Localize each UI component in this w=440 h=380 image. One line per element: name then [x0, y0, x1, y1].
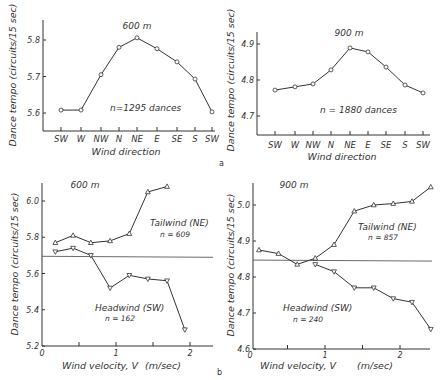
sample-size-annotation: n = 1880 dances	[320, 105, 397, 115]
y-tick-label: 5.8	[27, 36, 40, 45]
sample-size-annotation: n=1295 dances	[110, 103, 181, 113]
chart-title: 900 m	[335, 28, 364, 38]
chart-b-900: 4.64.74.84.95.0Dance tempo (circuits/15 …	[225, 180, 433, 371]
data-point-triangle-down	[53, 250, 58, 254]
x-category-label: NE	[131, 134, 143, 144]
data-line	[315, 264, 431, 329]
data-point-circle	[384, 65, 388, 69]
x-category-label: SW	[54, 134, 68, 144]
series-n-label: n = 240	[293, 315, 323, 324]
y-tick-label: 4.9	[237, 237, 250, 246]
y-axis-label: Dance tempo (circuits/15 sec)	[9, 193, 20, 336]
data-point-triangle-up	[410, 199, 415, 203]
x-axis-label: Wind direction	[308, 151, 377, 162]
x-category-label: SW	[205, 134, 219, 144]
y-axis-label: Dance tempo (circuits/15 sec)	[225, 194, 236, 337]
data-point-triangle-up	[313, 256, 318, 260]
data-point-triangle-down	[108, 286, 113, 290]
data-point-circle	[59, 108, 63, 112]
y-tick-label: 6.0	[26, 197, 39, 206]
y-tick-label: 5.8	[26, 233, 39, 242]
data-point-circle	[99, 73, 103, 77]
x-category-label: N	[328, 140, 335, 150]
data-point-circle	[421, 91, 425, 95]
x-category-label: S	[402, 140, 408, 150]
y-tick-label: 4.9	[241, 40, 254, 49]
reference-line	[253, 260, 432, 261]
data-point-circle	[348, 46, 352, 50]
x-category-label: N	[116, 134, 123, 144]
x-axis-unit: (m/sec)	[357, 360, 393, 371]
panel-label-b: b	[217, 368, 222, 377]
x-category-label: W	[291, 140, 300, 150]
data-point-triangle-up	[71, 233, 76, 237]
data-line	[61, 38, 212, 112]
chart-a-900: 4.74.84.9Dance tempo (circuits/15 sec)90…	[225, 9, 430, 163]
chart-a-600: 5.65.75.8Dance tempo (circuits/15 sec)60…	[7, 4, 219, 158]
x-tick-label: 0	[39, 349, 44, 358]
series-headwind: Headwind (SW)n = 240	[283, 263, 433, 332]
series-tailwind: Tailwind (NE)n = 857	[257, 184, 434, 266]
x-category-label: SW	[416, 140, 430, 150]
x-tick-label: 1	[322, 351, 327, 360]
data-point-triangle-down	[165, 279, 170, 283]
axes	[43, 20, 215, 131]
series-n-label: n = 162	[105, 314, 135, 323]
chart-b-600: 5.25.45.65.86.0Dance tempo (circuits/15 …	[9, 180, 213, 371]
series-tailwind: Tailwind (NE)n = 609	[53, 184, 209, 245]
x-tick-label: 2	[397, 351, 402, 360]
y-tick-label: 4.7	[241, 112, 255, 121]
data-point-triangle-down	[182, 328, 187, 332]
y-tick-label: 5.6	[26, 270, 39, 279]
x-category-label: W	[77, 134, 86, 144]
data-point-circle	[210, 110, 214, 114]
data-point-triangle-up	[428, 184, 433, 188]
y-tick-label: 5.2	[26, 342, 39, 351]
data-point-circle	[193, 77, 197, 81]
x-category-label: E	[365, 140, 371, 150]
chart-title: 600 m	[123, 21, 152, 31]
figure-canvas: 5.65.75.8Dance tempo (circuits/15 sec)60…	[0, 0, 440, 380]
data-point-circle	[403, 83, 407, 87]
data-point-triangle-down	[428, 327, 433, 331]
x-axis-unit: (m/sec)	[145, 360, 181, 371]
y-tick-label: 4.8	[241, 76, 254, 85]
x-tick-label: 1	[113, 349, 118, 358]
data-point-triangle-up	[127, 231, 132, 235]
x-axis-label: Wind direction	[92, 146, 161, 157]
data-point-circle	[79, 108, 83, 112]
x-category-label: NE	[344, 140, 356, 150]
x-axis-label: Wind velocity, V	[260, 360, 338, 371]
series-headwind: Headwind (SW)n = 162	[53, 246, 187, 332]
chart-title: 900 m	[280, 180, 309, 190]
data-point-triangle-up	[165, 184, 170, 188]
x-category-label: SE	[172, 134, 183, 144]
reference-line	[42, 256, 213, 257]
y-tick-label: 5.7	[27, 73, 41, 82]
y-tick-label: 5.6	[27, 109, 40, 118]
y-tick-label: 5.4	[26, 306, 39, 315]
data-point-circle	[155, 47, 159, 51]
x-tick-label: 2	[187, 349, 192, 358]
x-category-label: NW	[306, 140, 321, 150]
series-n-label: n = 609	[160, 230, 190, 239]
series-n-label: n = 857	[368, 233, 398, 242]
data-point-circle	[135, 36, 139, 40]
x-axis-label: Wind velocity, V	[62, 360, 140, 371]
x-category-label: S	[192, 134, 198, 144]
x-category-label: NW	[94, 134, 109, 144]
data-point-circle	[175, 60, 179, 64]
x-tick-label: 0	[247, 351, 252, 360]
y-tick-label: 4.8	[237, 273, 250, 282]
series-label: Tailwind (NE)	[150, 218, 209, 228]
data-point-triangle-up	[257, 247, 262, 251]
data-point-circle	[366, 50, 370, 54]
panel-label-a: a	[219, 159, 224, 168]
data-point-circle	[117, 45, 121, 49]
x-category-label: SW	[268, 140, 282, 150]
axes	[253, 183, 430, 349]
y-tick-label: 5.0	[237, 201, 250, 210]
data-point-circle	[293, 85, 297, 89]
series-label: Headwind (SW)	[95, 303, 164, 313]
data-point-circle	[329, 68, 333, 72]
